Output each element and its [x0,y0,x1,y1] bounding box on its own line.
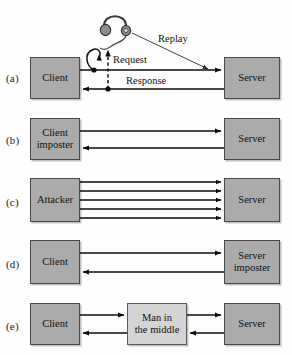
node-server-e-label: Server [236,318,267,330]
node-server-b-label: Server [236,133,267,145]
headphones-icon [100,16,131,49]
node-server-c-label: Server [236,194,267,206]
tap-dot-response [105,86,110,91]
tap-dot-request [91,67,96,72]
arrowhead-capture-curve [97,54,102,61]
row-label-d: (d) [6,258,19,270]
row-d-connectors [80,253,224,272]
node-client-d-label: Client [40,256,70,268]
node-client-imposter-b-line2: imposter [37,139,74,150]
node-attacker-c: Attacker [30,178,80,222]
node-server-c: Server [224,178,280,222]
node-server-imposter-d-label: Server imposter [232,250,273,274]
row-label-e: (e) [6,320,19,332]
row-label-a: (a) [6,72,19,84]
arrow-capture-curve [87,49,100,70]
node-server-imposter-d-line2: imposter [234,262,271,273]
node-man-in-the-middle-e-label: Man in the middle [133,312,182,336]
edge-label-response: Response [126,75,166,86]
node-client-e-label: Client [40,318,70,330]
arrowhead-capture-dashed [105,50,111,57]
node-man-in-the-middle-e: Man in the middle [127,303,187,345]
row-c-connectors [80,182,221,218]
node-server-e: Server [224,303,280,345]
node-client-imposter-b: Client imposter [30,118,80,160]
edge-label-request: Request [113,54,147,65]
node-client-imposter-b-line1: Client [42,127,68,138]
node-client-d: Client [30,240,80,284]
attack-scenarios-figure: (a) Client Server Request Response Repla… [0,0,292,355]
node-server-a: Server [224,57,280,99]
node-server-b: Server [224,118,280,160]
node-client-a: Client [30,57,80,99]
node-server-imposter-d-line1: Server [238,250,265,261]
node-server-imposter-d: Server imposter [224,240,280,284]
node-client-a-label: Client [40,72,70,84]
row-b-connectors [80,131,224,148]
row-label-b: (b) [6,134,19,146]
node-client-e: Client [30,303,80,345]
node-mitm-e-line2: the middle [135,324,180,335]
node-server-a-label: Server [236,72,267,84]
node-attacker-c-label: Attacker [35,194,75,206]
node-mitm-e-line1: Man in [142,312,172,323]
node-client-imposter-b-label: Client imposter [35,127,76,151]
row-label-c: (c) [6,196,19,208]
edge-label-replay: Replay [158,33,188,44]
